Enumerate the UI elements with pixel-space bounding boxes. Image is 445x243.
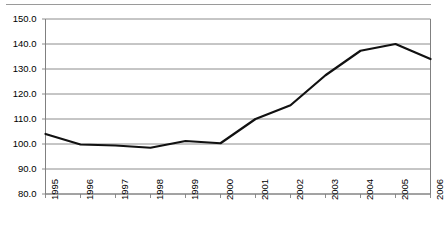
data-series-line — [46, 44, 431, 148]
x-tick-label: 1997 — [120, 179, 130, 200]
y-tick-label: 130.0 — [1, 64, 37, 74]
y-tick-label: 100.0 — [1, 139, 37, 149]
x-tick-label: 2006 — [435, 179, 445, 200]
x-tick-label: 1995 — [50, 179, 60, 200]
x-tick-label: 2001 — [260, 179, 270, 200]
y-tick-label: 150.0 — [1, 14, 37, 24]
x-tick-label: 1996 — [85, 179, 95, 200]
x-tick-label: 2003 — [330, 179, 340, 200]
y-tick-label: 80.0 — [1, 189, 37, 199]
x-tick-label: 2004 — [365, 179, 375, 200]
gridlines-group — [42, 19, 431, 194]
axis-lines-group — [46, 19, 431, 194]
x-tick-label: 1998 — [155, 179, 165, 200]
x-tick-label: 1999 — [190, 179, 200, 200]
y-tick-label: 90.0 — [1, 164, 37, 174]
x-tick-label: 2005 — [400, 179, 410, 200]
y-tick-label: 110.0 — [1, 114, 37, 124]
y-tick-label: 140.0 — [1, 39, 37, 49]
x-tick-label: 2000 — [225, 179, 235, 200]
x-tick-label: 2002 — [295, 179, 305, 200]
y-tick-label: 120.0 — [1, 89, 37, 99]
